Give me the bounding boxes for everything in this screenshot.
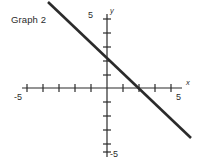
- axis-group: [22, 14, 182, 157]
- plotted-line: [48, 2, 191, 138]
- x-axis-max-label: 5: [176, 93, 181, 102]
- y-axis-max-label: 5: [88, 11, 93, 20]
- coordinate-plane: [0, 0, 200, 167]
- y-axis-name-label: y: [110, 7, 114, 15]
- graph-title: Graph 2: [11, 15, 46, 25]
- y-axis-min-label: -5: [110, 150, 118, 159]
- x-axis-name-label: x: [186, 79, 190, 87]
- graph-figure: Graph 2 5 -5 -5 5 y x: [0, 0, 200, 167]
- x-axis-min-label: -5: [14, 93, 22, 102]
